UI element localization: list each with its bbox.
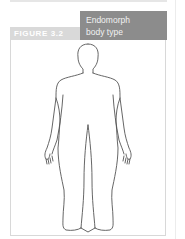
endomorph-body-illustration bbox=[10, 40, 166, 236]
figure-title-line-2: body type bbox=[86, 26, 167, 38]
inner-legs bbox=[81, 125, 95, 232]
top-divider bbox=[10, 0, 167, 2]
page-margin-line bbox=[175, 0, 176, 239]
figure-title-line-1: Endomorph bbox=[86, 14, 167, 26]
figure-title: Endomorph body type bbox=[80, 11, 167, 40]
left-torso-outline bbox=[45, 73, 83, 230]
head-outline bbox=[78, 44, 98, 73]
figure-number-label: FIGURE 3.2 bbox=[10, 27, 80, 40]
right-torso-outline bbox=[93, 73, 131, 230]
